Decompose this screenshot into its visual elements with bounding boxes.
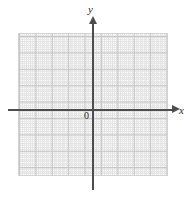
origin-label: 0	[84, 111, 89, 121]
y-axis-line	[92, 22, 94, 190]
coordinate-grid-figure: y x 0	[0, 0, 190, 200]
x-axis-line	[8, 109, 174, 111]
y-axis-arrowhead-icon	[89, 16, 97, 24]
x-axis-label: x	[179, 105, 184, 116]
y-axis-label: y	[88, 4, 93, 15]
